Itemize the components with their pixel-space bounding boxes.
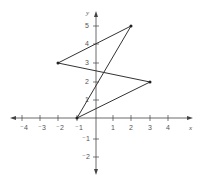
y-tick-label: 3 <box>85 59 89 66</box>
x-axis-left-arrow-icon <box>10 116 16 120</box>
y-tick-label: 4 <box>85 40 89 47</box>
data-polygon <box>58 26 150 118</box>
y-tick-label: 2 <box>85 78 89 85</box>
y-tick-label: ⁻2 <box>82 153 90 160</box>
point-marker <box>57 62 60 65</box>
x-tick-label: ⁻4 <box>20 124 28 131</box>
point-marker <box>76 117 79 120</box>
x-axis-right-arrow-icon <box>187 116 193 120</box>
coordinate-plane: ⁻4 ⁻3 ⁻2 ⁻1 1 2 3 4 x 5 4 3 2 1 ⁻1 ⁻2 y <box>0 0 205 185</box>
y-tick-label: 5 <box>85 22 89 29</box>
point-marker <box>149 81 152 84</box>
y-axis-down-arrow-icon <box>94 169 98 175</box>
y-axis-up-arrow-icon <box>94 11 98 17</box>
x-tick-label: 2 <box>129 124 133 131</box>
point-marker <box>130 25 133 28</box>
x-axis-label: x <box>188 124 193 132</box>
x-tick-label: 1 <box>111 124 115 131</box>
x-tick-label: 4 <box>166 124 170 131</box>
y-tick-label: ⁻1 <box>82 135 90 142</box>
x-axis: ⁻4 ⁻3 ⁻2 ⁻1 1 2 3 4 x <box>10 115 193 132</box>
x-tick-label: 3 <box>148 124 152 131</box>
x-tick-label: ⁻2 <box>56 124 64 131</box>
x-tick-label: ⁻1 <box>75 124 83 131</box>
x-tick-label: ⁻3 <box>38 124 46 131</box>
y-axis-label: y <box>85 9 90 17</box>
y-axis: 5 4 3 2 1 ⁻1 ⁻2 y <box>82 9 99 175</box>
